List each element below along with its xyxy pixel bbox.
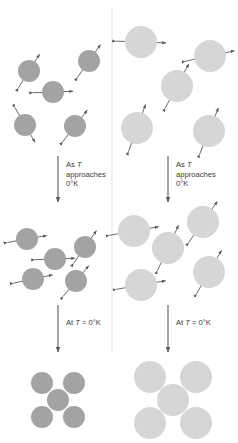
particle: [78, 50, 100, 72]
particle: [44, 248, 66, 270]
particle: [22, 268, 44, 290]
particle: [193, 115, 225, 147]
particle: [134, 361, 166, 393]
particle: [180, 407, 212, 439]
particle: [64, 115, 86, 137]
particle: [14, 114, 36, 136]
particle: [16, 228, 38, 250]
particle: [125, 269, 157, 301]
particle: [193, 256, 225, 288]
particle: [63, 372, 85, 394]
particle: [31, 372, 53, 394]
particle: [187, 206, 219, 238]
particle: [65, 270, 87, 292]
particle: [121, 112, 153, 144]
temperature-ordering-diagram: As Tapproaches0°KAt T = 0°KAs Tapproache…: [0, 0, 238, 443]
particle: [152, 232, 184, 264]
particle: [47, 389, 69, 411]
particle: [31, 406, 53, 428]
particle: [161, 70, 193, 102]
particle: [118, 215, 150, 247]
particle: [74, 236, 96, 258]
particle: [63, 406, 85, 428]
particle: [180, 361, 212, 393]
particle: [125, 26, 157, 58]
transition-label: At T = 0°K: [66, 318, 101, 327]
particle: [134, 407, 166, 439]
particle: [157, 384, 189, 416]
particle: [18, 60, 40, 82]
transition-label: At T = 0°K: [176, 318, 211, 327]
particle: [194, 40, 226, 72]
particle: [42, 81, 64, 103]
